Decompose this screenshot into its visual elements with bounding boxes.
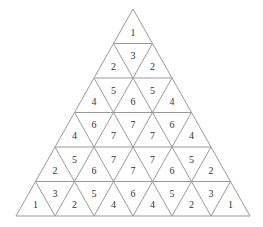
cell-down-value: 5 xyxy=(72,154,77,165)
cell-down-value: 5 xyxy=(92,188,97,199)
cell-up-value: 2 xyxy=(209,165,214,176)
cell-up-value: 4 xyxy=(150,199,155,210)
cell-up-value: 4 xyxy=(72,130,77,141)
cell-up-value: 6 xyxy=(92,165,97,176)
grid-line xyxy=(55,44,153,217)
cell-down-value: 6 xyxy=(131,188,136,199)
grid-lines xyxy=(16,9,250,216)
cell-down-value: 5 xyxy=(170,188,175,199)
cell-down-value: 7 xyxy=(150,154,155,165)
cell-down-value: 3 xyxy=(131,50,136,61)
cell-up-value: 6 xyxy=(170,165,175,176)
cell-down-value: 3 xyxy=(209,188,214,199)
cell-down-value: 7 xyxy=(111,154,116,165)
cell-labels: 123245654467776425677765213254645231 xyxy=(33,27,233,211)
cell-up-value: 6 xyxy=(131,96,136,107)
grid-line xyxy=(133,113,192,217)
cell-up-value: 7 xyxy=(131,165,136,176)
triangle-grid-svg: 123245654467776425677765213254645231 xyxy=(0,0,263,227)
cell-up-value: 2 xyxy=(111,61,116,72)
cell-down-value: 5 xyxy=(150,85,155,96)
grid-line xyxy=(75,113,134,217)
cell-up-value: 2 xyxy=(72,199,77,210)
cell-up-value: 4 xyxy=(111,199,116,210)
cell-up-value: 2 xyxy=(150,61,155,72)
grid-line xyxy=(114,44,212,217)
cell-up-value: 4 xyxy=(170,96,175,107)
cell-up-value: 4 xyxy=(92,96,97,107)
cell-up-value: 1 xyxy=(131,27,136,38)
cell-down-value: 6 xyxy=(170,119,175,130)
cell-up-value: 2 xyxy=(189,199,194,210)
cell-up-value: 4 xyxy=(189,130,194,141)
cell-up-value: 7 xyxy=(150,130,155,141)
triangle-diagram: 123245654467776425677765213254645231 xyxy=(0,0,263,227)
cell-down-value: 5 xyxy=(189,154,194,165)
cell-up-value: 2 xyxy=(53,165,58,176)
cell-down-value: 3 xyxy=(53,188,58,199)
cell-up-value: 1 xyxy=(228,199,233,210)
cell-down-value: 6 xyxy=(92,119,97,130)
cell-down-value: 7 xyxy=(131,119,136,130)
cell-up-value: 1 xyxy=(33,199,38,210)
cell-up-value: 7 xyxy=(111,130,116,141)
cell-down-value: 5 xyxy=(111,85,116,96)
